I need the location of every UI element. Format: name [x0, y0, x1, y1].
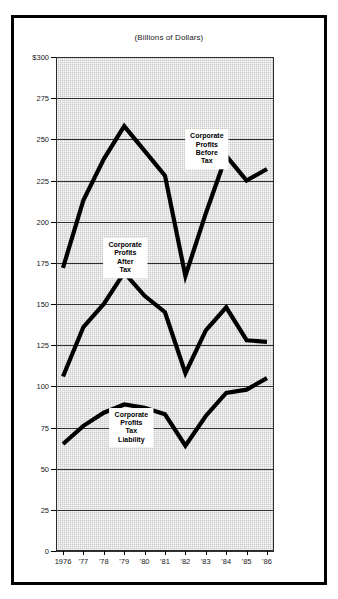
x-tick-mark-1982: [185, 551, 186, 555]
y-tick-label-50: 50: [41, 464, 49, 473]
x-tick-mark-1978: [104, 551, 105, 555]
x-tick-label-1976: 1976: [55, 557, 72, 566]
annotation-label-2: Corporate Profits Tax Liability: [110, 408, 153, 448]
annotation-label-0: Corporate Profits Before Tax: [185, 129, 228, 169]
plot-area: 0255075100125150175200225250275$300 1976…: [56, 57, 274, 551]
x-tick-label-1981: '81: [160, 557, 170, 566]
annotation-label-1: Corporate Profits After Tax: [103, 238, 146, 278]
x-tick-mark-1983: [206, 551, 207, 555]
x-tick-mark-1977: [83, 551, 84, 555]
x-tick-label-1985: '85: [242, 557, 252, 566]
y-tick-label-175: 175: [36, 258, 49, 267]
y-tick-label-150: 150: [36, 300, 49, 309]
x-tick-label-1986: '86: [262, 557, 272, 566]
x-tick-mark-1980: [145, 551, 146, 555]
x-tick-label-1978: '78: [99, 557, 109, 566]
y-tick-label-125: 125: [36, 341, 49, 350]
x-tick-label-1979: '79: [119, 557, 129, 566]
y-tick-label-200: 200: [36, 217, 49, 226]
y-tick-label-25: 25: [41, 505, 49, 514]
y-tick-label-300: $300: [32, 53, 49, 62]
chart-page: (Billions of Dollars) 025507510012515017…: [0, 0, 338, 599]
x-tick-mark-1976: [63, 551, 64, 555]
y-tick-label-100: 100: [36, 382, 49, 391]
y-tick-mark-0: [51, 551, 56, 552]
y-tick-label-0: 0: [45, 547, 49, 556]
x-tick-mark-1979: [124, 551, 125, 555]
x-tick-label-1980: '80: [140, 557, 150, 566]
x-tick-label-1977: '77: [79, 557, 89, 566]
chart-title: (Billions of Dollars): [0, 33, 338, 42]
series-line-2: [63, 378, 267, 446]
x-tick-label-1984: '84: [221, 557, 231, 566]
y-tick-label-275: 275: [36, 94, 49, 103]
y-tick-label-250: 250: [36, 135, 49, 144]
series-line-0: [63, 126, 267, 276]
y-tick-label-75: 75: [41, 423, 49, 432]
x-tick-mark-1986: [267, 551, 268, 555]
series-line-1: [63, 273, 267, 377]
series-lines: [56, 57, 274, 551]
y-tick-label-225: 225: [36, 176, 49, 185]
x-tick-mark-1985: [247, 551, 248, 555]
x-tick-mark-1981: [165, 551, 166, 555]
x-tick-label-1982: '82: [181, 557, 191, 566]
x-tick-mark-1984: [226, 551, 227, 555]
x-tick-label-1983: '83: [201, 557, 211, 566]
